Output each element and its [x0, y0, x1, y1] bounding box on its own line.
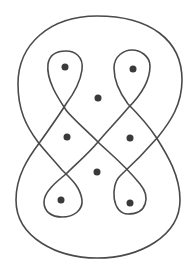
dot-middle-left: [64, 134, 71, 141]
knot-diagram: [0, 0, 193, 272]
puncture-dots: [58, 64, 137, 207]
dot-bottom-left: [58, 197, 65, 204]
closed-curve: [16, 16, 182, 258]
dot-center-top: [95, 95, 102, 102]
dot-middle-right: [127, 135, 134, 142]
dot-top-right: [130, 66, 137, 73]
dot-center-bottom: [94, 169, 101, 176]
dot-top-left: [62, 64, 69, 71]
dot-bottom-right: [127, 200, 134, 207]
